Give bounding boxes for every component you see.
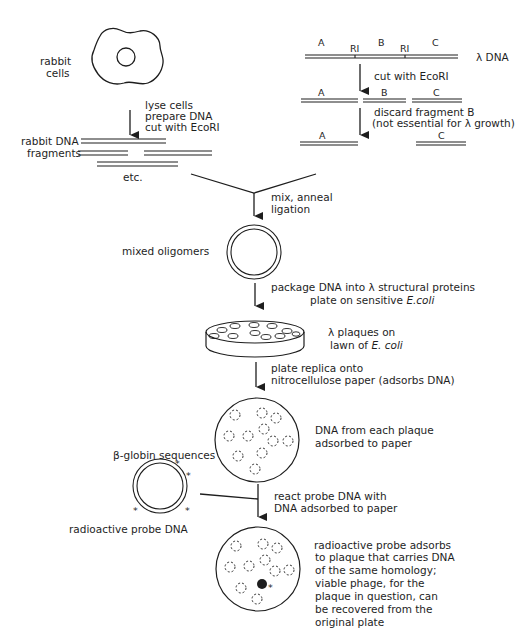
etc-label: etc. <box>123 171 143 183</box>
lyse-step-line3: cut with EcoRI <box>145 121 220 133</box>
plaques-label-prefix: lawn of <box>330 339 371 351</box>
positive-plaque <box>257 579 267 589</box>
lambda-site-1: RI <box>350 43 359 54</box>
packaging-step-line1: package DNA into λ structural proteins <box>271 281 475 293</box>
lambda-site-2: RI <box>400 43 409 54</box>
lambda-arms <box>300 142 466 145</box>
plaques-label-line1: λ plaques on <box>328 326 395 338</box>
rabbit-dna-fragments <box>78 139 212 166</box>
mixed-oligomers-label: mixed oligomers <box>122 245 209 257</box>
result-line3: of the same homology; <box>315 564 436 576</box>
lambda-arm-a: A <box>319 130 326 141</box>
petri-dish <box>206 321 304 357</box>
cut-lambda-step: cut with EcoRI <box>374 70 449 82</box>
hybridize-step-line2: DNA adsorbed to paper <box>274 502 398 514</box>
result-line2: to plaque that carries DNA <box>315 551 455 563</box>
filter-result-line2: adsorbed to paper <box>315 437 413 449</box>
lambda-dna <box>305 55 458 58</box>
positive-marker: * <box>268 582 273 593</box>
lambda-fragments <box>301 99 462 102</box>
lambda-seg-b: B <box>378 37 385 48</box>
result-line6: be recovered from the <box>315 603 432 615</box>
hybridize-step-line1: react probe DNA with <box>274 490 387 502</box>
radioactive-probe-label: radioactive probe DNA <box>69 523 189 535</box>
result-line7: original plate <box>315 616 384 628</box>
probe-marker-4: * <box>185 505 190 516</box>
cloning-procedure-diagram: rabbit cells lyse cells prepare DNA cut … <box>0 0 519 630</box>
lambda-frag-b: B <box>381 87 388 98</box>
lambda-seg-c: C <box>432 37 439 48</box>
rabbit-cells-label: rabbit <box>40 55 71 67</box>
probe-marker-2: * <box>186 470 191 481</box>
rabbit-dna-fragments-label: rabbit DNA <box>21 135 79 147</box>
ligation-step-line2: ligation <box>271 203 310 215</box>
plaques-organism: E. coli <box>371 339 402 351</box>
recombinant-circle <box>227 225 281 279</box>
rabbit-dna-fragments-label-2: fragments <box>27 147 81 159</box>
nitrocellulose-filter <box>215 398 299 482</box>
rabbit-cell <box>92 28 163 84</box>
autoradiograph-filter <box>216 527 300 611</box>
discard-step-line2: (not essential for λ growth) <box>372 117 515 129</box>
lambda-seg-a: A <box>318 37 325 48</box>
probe-marker-3: * <box>133 505 138 516</box>
replica-step-line2: nitrocellulose paper (adsorbs DNA) <box>271 374 455 386</box>
packaging-step-line2: plate on sensitive E.coli <box>310 294 434 306</box>
ligation-step-line1: mix, anneal <box>271 191 333 203</box>
result-line1: radioactive probe adsorbs <box>314 539 451 551</box>
filter-result-line1: DNA from each plaque <box>315 424 434 436</box>
replica-step-line1: plate replica onto <box>271 362 363 374</box>
rabbit-cells-label-2: cells <box>46 67 70 79</box>
lambda-arm-c: C <box>438 130 445 141</box>
probe-connector <box>200 494 258 499</box>
plaques-label-line2: lawn of E. coli <box>330 339 403 351</box>
lambda-frag-c: C <box>433 87 440 98</box>
lambda-dna-label: λ DNA <box>476 51 509 63</box>
result-line5: plaque in question, can <box>315 590 438 602</box>
packaging-step-line2-prefix: plate on sensitive <box>310 294 406 306</box>
result-line4: viable phage, for the <box>315 577 425 589</box>
lambda-frag-a: A <box>318 87 325 98</box>
probe-marker-1: * <box>175 458 180 469</box>
packaging-organism: E.coli <box>406 294 434 306</box>
